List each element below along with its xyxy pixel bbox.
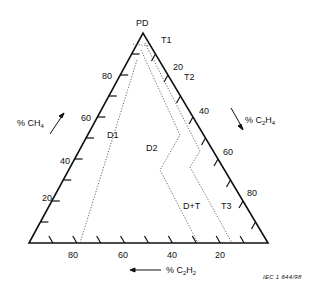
right-tick-60: 60 (223, 147, 233, 157)
right-axis-label: % C2H4 (245, 115, 275, 128)
boundary-t1-t2 (132, 44, 151, 46)
left-axis-ticks (40, 54, 139, 222)
bottom-tick-40: 40 (167, 250, 177, 260)
boundary-d1-d2 (80, 60, 137, 243)
right-tick-40: 40 (199, 106, 209, 116)
ch4-arrowhead (59, 113, 64, 118)
zone-label-dt: D+T (183, 201, 200, 211)
zone-label-t3: T3 (221, 201, 232, 211)
triangle-outline (29, 33, 268, 243)
right-tick-80: 80 (247, 188, 257, 198)
axis-arrows (50, 108, 243, 272)
zone-label-t2: T2 (184, 72, 195, 82)
right-tick-20: 20 (173, 62, 183, 72)
c2h2-arrowhead (130, 268, 135, 272)
bottom-tick-60: 60 (118, 250, 128, 260)
zone-label-d2: D2 (146, 143, 158, 153)
bottom-tick-20: 20 (215, 250, 225, 260)
zone-label-t1: T1 (161, 35, 172, 45)
c2h4-arrowhead (238, 124, 243, 130)
vertex-label-pd: PD (136, 18, 149, 28)
left-tick-20: 20 (42, 193, 52, 203)
bottom-axis-ticks (49, 236, 244, 243)
iec-reference: IEC 1 644/98 (263, 272, 302, 282)
right-axis-ticks (152, 54, 256, 229)
bottom-axis-label: % C2H2 (166, 265, 196, 278)
left-tick-40: 40 (60, 156, 70, 166)
left-axis-label: % CH4 (17, 118, 44, 131)
zone-label-d1: D1 (107, 130, 119, 140)
left-tick-60: 60 (81, 113, 91, 123)
left-tick-80: 80 (102, 71, 112, 81)
bottom-tick-80: 80 (68, 250, 78, 260)
